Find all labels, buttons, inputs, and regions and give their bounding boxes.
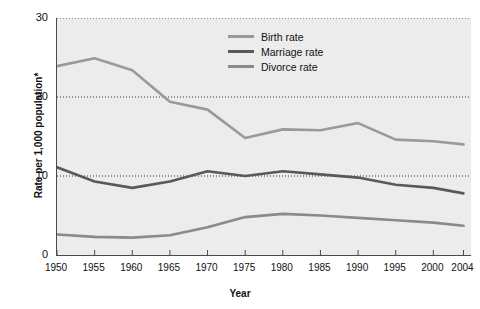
y-axis-tick-label: 30 <box>4 11 48 23</box>
series-lines <box>57 58 463 237</box>
y-axis-tick-label: 10 <box>4 169 48 181</box>
chart-legend: Birth rateMarriage rateDivorce rate <box>228 29 323 74</box>
legend-color-swatch <box>228 50 254 54</box>
legend-color-swatch <box>228 35 254 39</box>
x-axis-ticks <box>57 250 463 255</box>
legend-color-swatch <box>228 65 254 69</box>
legend-item-label: Birth rate <box>261 31 304 43</box>
x-axis-title: Year <box>0 288 480 299</box>
x-axis-tick-label: 2004 <box>439 262 480 273</box>
y-axis-title: Rate per 1,000 population* <box>33 36 44 236</box>
y-axis-tick-label: 20 <box>4 90 48 102</box>
legend-item: Birth rate <box>228 29 323 44</box>
legend-item-label: Marriage rate <box>261 46 323 58</box>
series-line <box>57 214 463 238</box>
legend-item: Divorce rate <box>228 59 323 74</box>
legend-item: Marriage rate <box>228 44 323 59</box>
chart-figure: Rate per 1,000 population* 0102030 19501… <box>0 0 480 309</box>
series-line <box>57 167 463 193</box>
y-axis-tick-label: 0 <box>4 248 48 260</box>
legend-item-label: Divorce rate <box>261 61 318 73</box>
